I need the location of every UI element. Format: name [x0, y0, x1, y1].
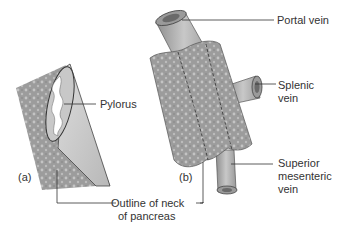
panel-b-illustration [150, 7, 262, 194]
label-superior-mesenteric-line1: Superior [278, 157, 320, 169]
label-superior-mesenteric-line2: mesenteric [278, 170, 332, 182]
panel-label-a: (a) [18, 171, 31, 183]
label-splenic-vein-line1: Splenic [278, 79, 314, 91]
label-portal-vein: Portal vein [277, 14, 329, 26]
label-splenic-vein-line2: vein [278, 92, 298, 104]
label-superior-mesenteric-line3: vein [278, 183, 298, 195]
label-outline-neck-line1: Outline of neck [111, 197, 184, 209]
label-pylorus: Pylorus [100, 98, 137, 110]
label-outline-neck-line2: of pancreas [118, 210, 175, 222]
panel-label-b: (b) [179, 171, 192, 183]
